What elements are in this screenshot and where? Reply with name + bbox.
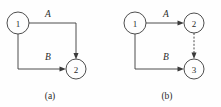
panel-a-edge-b-label: B (45, 52, 51, 62)
panel-b-edge-a-arrowhead (178, 21, 185, 26)
panel-a-group: 1 2 A B (a) (7, 9, 86, 102)
panel-b-dashed-edge-arrowhead (192, 53, 197, 60)
panel-a-edge-b-path (18, 34, 62, 69)
panel-a-edge-a-label: A (44, 9, 51, 19)
figure-container: 1 2 A B (a) 1 2 (0, 0, 221, 107)
panel-a-edge-a-arrowhead (74, 53, 79, 60)
panel-b-group: 1 2 3 A B (b) (124, 9, 204, 102)
panel-a-edge-a-path (29, 23, 76, 56)
panel-a-caption: (a) (45, 91, 56, 102)
panel-b-caption: (b) (161, 91, 172, 102)
panel-a-edge-b-arrowhead (60, 67, 67, 72)
panel-b-edge-b-label: B (163, 52, 169, 62)
panel-b-edge-b-path (135, 34, 180, 69)
panel-b-edge-a-label: A (162, 9, 169, 19)
panel-b-node-2-label: 2 (192, 19, 197, 29)
diagram-svg-canvas: 1 2 A B (a) 1 2 (0, 0, 221, 107)
panel-b-node-3-label: 3 (192, 65, 197, 75)
panel-b-node-1-label: 1 (133, 19, 138, 29)
panel-a-node-1-label: 1 (16, 19, 21, 29)
panel-b-edge-b-arrowhead (178, 67, 185, 72)
panel-a-node-2-label: 2 (74, 65, 79, 75)
